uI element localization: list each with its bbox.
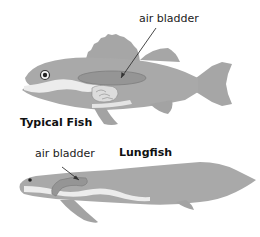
typical-fish-organs: [92, 85, 118, 102]
lungfish-pectoral-fin: [60, 200, 98, 223]
typical-fish-air-bladder-label: air bladder: [139, 12, 199, 25]
lungfish: [20, 162, 257, 223]
typical-fish-pupil: [43, 73, 47, 77]
lungfish-eye: [28, 178, 32, 182]
lungfish-title: Lungfish: [119, 146, 172, 159]
typical-fish: [22, 28, 232, 125]
typical-fish-title: Typical Fish: [20, 116, 92, 129]
typical-fish-pelvic-fin: [94, 108, 118, 125]
lungfish-air-bladder-label: air bladder: [35, 147, 95, 160]
typical-fish-air-bladder: [78, 71, 146, 85]
fish-air-bladder-diagram: air bladder Typical Fish air bladder Lun…: [0, 0, 260, 237]
typical-fish-tail: [196, 62, 232, 106]
typical-fish-soft-dorsal-fin: [140, 48, 180, 62]
